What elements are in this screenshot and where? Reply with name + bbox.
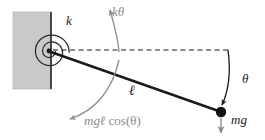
pendulum-bob <box>216 107 226 117</box>
pendulum-rod <box>50 52 221 112</box>
label-spring-torque: kθ <box>112 5 124 18</box>
gravity-torque-arrow <box>70 60 119 119</box>
physics-diagram: k kθ ℓ θ mg mgℓ cos(θ) <box>0 0 265 140</box>
label-rod-length: ℓ <box>129 84 135 98</box>
label-spring-constant: k <box>66 14 72 27</box>
label-gravity-torque-prefix: mgℓ <box>84 113 109 128</box>
wall-block <box>13 12 51 89</box>
label-gravity-torque-function: cos(θ) <box>109 113 141 128</box>
label-gravity-torque: mgℓ cos(θ) <box>84 114 141 127</box>
label-weight-force: mg <box>231 113 247 126</box>
angle-arc-arrow <box>222 50 229 105</box>
label-angle: θ <box>242 72 248 85</box>
